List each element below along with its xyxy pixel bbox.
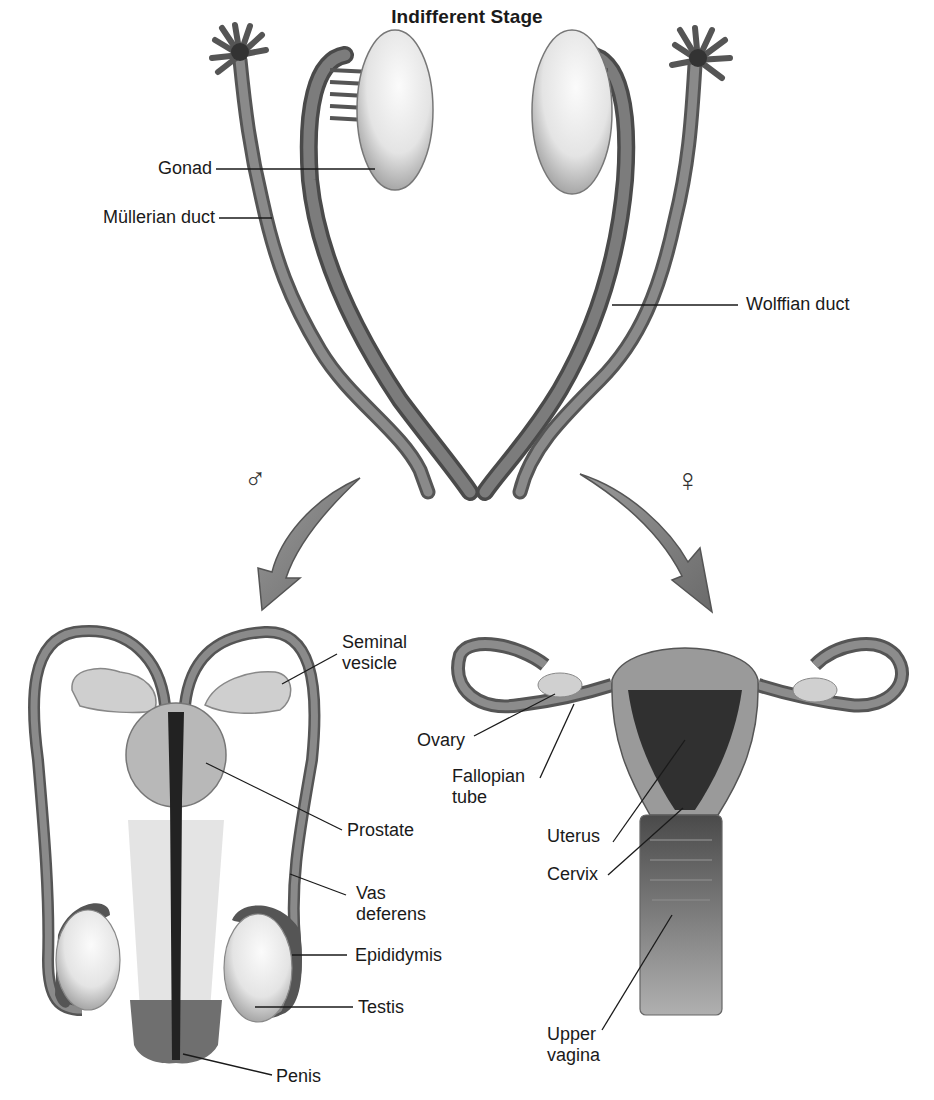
label-mullerian-duct: Müllerian duct [103,207,215,228]
left-gonad [357,30,433,190]
male-reproductive-illustration [34,631,315,1063]
label-vas-deferens-line2: deferens [356,904,426,925]
male-branch-arrow [258,478,360,610]
label-gonad: Gonad [158,158,212,179]
label-cervix: Cervix [547,864,598,885]
label-uterus: Uterus [547,826,600,847]
right-ovary [793,678,837,702]
label-vas-deferens: Vas deferens [356,883,426,925]
female-reproductive-illustration [458,644,902,1015]
right-gonad [532,30,612,194]
label-seminal-vesicle-line1: Seminal [342,632,407,653]
label-upper-vagina-line2: vagina [547,1045,600,1066]
left-testis [56,910,120,1010]
indifferent-stage-illustration [212,25,730,492]
label-ovary: Ovary [417,730,465,751]
left-ovary [538,673,582,697]
label-epididymis: Epididymis [355,945,442,966]
label-seminal-vesicle: Seminal vesicle [342,632,407,674]
label-upper-vagina-line1: Upper [547,1024,600,1045]
left-fallopian-tube [458,644,612,706]
label-fallopian-tube-line2: tube [452,787,525,808]
label-seminal-vesicle-line2: vesicle [342,653,407,674]
label-prostate: Prostate [347,820,414,841]
right-seminal-vesicle [205,672,291,714]
label-wolffian-duct: Wolffian duct [746,294,849,315]
label-vas-deferens-line1: Vas [356,883,426,904]
label-fallopian-tube-line1: Fallopian [452,766,525,787]
label-fallopian-tube: Fallopian tube [452,766,525,808]
right-testis [224,914,292,1022]
label-testis: Testis [358,997,404,1018]
anatomy-illustration [0,0,934,1100]
label-penis: Penis [276,1066,321,1087]
left-seminal-vesicle [72,669,156,713]
label-upper-vagina: Upper vagina [547,1024,600,1066]
male-symbol-icon: ♂ [244,468,267,489]
female-symbol-icon: ♀ [676,470,700,491]
upper-vagina [640,815,722,1015]
